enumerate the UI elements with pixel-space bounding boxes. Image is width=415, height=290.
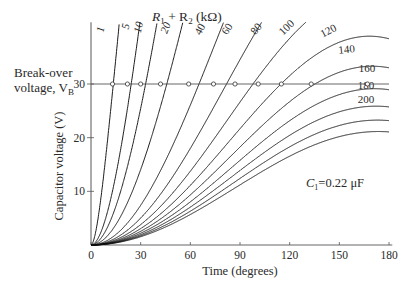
- breakover-point-10: [139, 82, 143, 86]
- x-tick-label: 30: [135, 249, 147, 261]
- curve-label-10: 10: [131, 20, 145, 34]
- curve-r-40k: [91, 23, 223, 245]
- x-tick-label: 150: [331, 249, 349, 261]
- y-tick-label: 10: [74, 185, 86, 197]
- curve-label-140: 140: [338, 42, 356, 56]
- breakover-line: [91, 82, 389, 86]
- curve-label-160: 160: [359, 62, 376, 74]
- charging-curves: 151020406080100120140160180200: [91, 17, 389, 245]
- breakover-point-60: [211, 82, 215, 86]
- curve-r-100k: [91, 36, 389, 245]
- y-tick-label: 30: [74, 78, 86, 90]
- capacitor-value-label: C1=0.22 μF: [306, 176, 364, 192]
- breakover-point-100: [256, 82, 260, 86]
- curve-r-1k: [91, 24, 119, 245]
- breakover-point-80: [233, 82, 237, 86]
- legend-title: R1 + R2 (kΩ): [151, 9, 222, 26]
- curve-label-120: 120: [318, 21, 339, 40]
- breakover-label-line1: Break-over: [14, 65, 73, 80]
- x-tick-label: 0: [88, 249, 94, 261]
- x-tick-label: 120: [281, 249, 299, 261]
- x-tick-label: 90: [234, 249, 246, 261]
- curve-label-200: 200: [358, 93, 375, 105]
- y-tick-label: 20: [74, 132, 86, 144]
- x-tick-label: 180: [380, 249, 398, 261]
- breakover-point-20: [158, 82, 162, 86]
- rc-charging-chart: 0306090120150180102030 15102040608010012…: [0, 0, 415, 290]
- labels: R1 + R2 (kΩ) Break-over voltage, VB Capa…: [14, 9, 364, 278]
- breakover-point-160: [365, 82, 369, 86]
- curve-label-1: 1: [94, 26, 107, 34]
- x-tick-label: 60: [185, 249, 197, 261]
- x-axis-label: Time (degrees): [202, 264, 278, 278]
- breakover-point-5: [125, 82, 129, 86]
- breakover-point-140: [309, 82, 313, 86]
- breakover-label-line2: voltage, VB: [14, 80, 74, 97]
- breakover-point-120: [279, 82, 283, 86]
- breakover-point-40: [187, 82, 191, 86]
- breakover-point-1: [110, 82, 114, 86]
- curve-label-5: 5: [119, 22, 132, 30]
- curve-r-5k: [91, 22, 140, 245]
- curve-r-140k: [91, 89, 389, 245]
- y-axis-label: Capacitor voltage (V): [52, 112, 66, 221]
